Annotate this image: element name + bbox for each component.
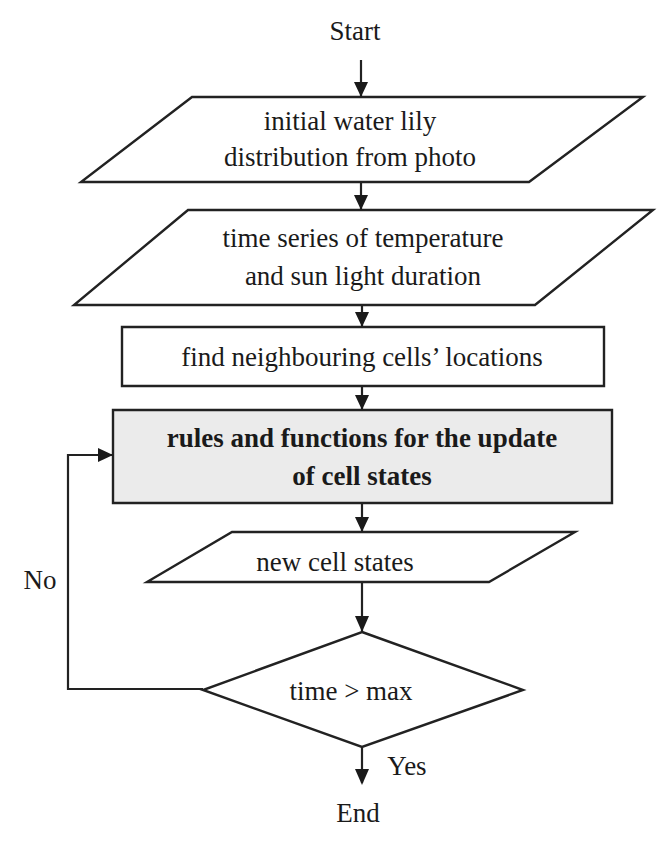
node-new-cell-states: new cell states bbox=[147, 532, 575, 582]
arrowhead-icon bbox=[355, 517, 369, 532]
node-time-check: time > max bbox=[203, 632, 523, 747]
node-initial-distribution: initial water lilydistribution from phot… bbox=[81, 97, 643, 182]
arrowhead-icon bbox=[98, 448, 113, 462]
arrowhead-icon bbox=[354, 82, 368, 97]
node-label-line: time series of temperature bbox=[222, 223, 503, 253]
arrowhead-icon bbox=[355, 312, 369, 327]
node-label-line: time > max bbox=[289, 676, 413, 706]
no-edge-label: No bbox=[24, 565, 57, 595]
start-terminal-label: Start bbox=[330, 16, 381, 46]
node-label-line: rules and functions for the update bbox=[167, 423, 557, 453]
nodes-layer: initial water lilydistribution from phot… bbox=[74, 97, 653, 747]
arrowhead-icon bbox=[354, 195, 368, 210]
node-label-line: of cell states bbox=[292, 461, 431, 491]
arrowhead-icon bbox=[355, 395, 369, 410]
node-update-rules: rules and functions for the updateof cel… bbox=[113, 410, 612, 503]
node-label-line: and sun light duration bbox=[245, 261, 482, 291]
arrowhead-icon bbox=[355, 769, 369, 785]
flowchart-canvas: initial water lilydistribution from phot… bbox=[0, 0, 665, 841]
node-time-series: time series of temperatureand sun light … bbox=[74, 210, 653, 305]
node-find-neighbours: find neighbouring cells’ locations bbox=[122, 327, 604, 386]
node-label-line: initial water lily bbox=[264, 106, 437, 136]
yes-edge-label: Yes bbox=[387, 751, 426, 781]
node-label-line: distribution from photo bbox=[224, 142, 476, 172]
arrowhead-icon bbox=[355, 616, 369, 632]
end-terminal-label: End bbox=[336, 798, 380, 828]
node-label-line: find neighbouring cells’ locations bbox=[181, 342, 543, 372]
node-label-line: new cell states bbox=[256, 547, 413, 577]
